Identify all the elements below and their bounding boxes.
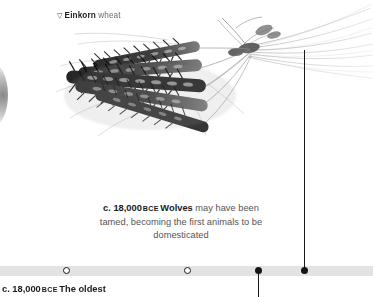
timeline-node-hollow-2[interactable] [184,267,191,274]
timeline-node-solid-1[interactable] [255,267,262,274]
caption-date: c. 18,000 [103,203,142,213]
bottom-entry-era: BCE [42,286,58,294]
bottom-entry-date: c. 18,000 [2,284,41,294]
specimen-label: ▽Einkornwheat [57,11,121,20]
bottom-entry-subject: The oldest [59,284,106,294]
einkorn-wheat-illustration [0,0,373,170]
timeline-infographic-page: ▽Einkornwheat c. 18,000BCEWolves may hav… [0,0,373,297]
specimen-name: Einkorn [65,11,96,20]
bottom-timeline-entry: c. 18,000BCEThe oldest [2,283,106,296]
caption-line1-tail: may [195,203,213,213]
leader-line-up [304,50,305,271]
leader-line-down [258,271,259,297]
timeline-node-solid-2[interactable] [301,267,308,274]
caption-subject: Wolves [160,203,192,213]
triangle-down-icon: ▽ [57,11,62,20]
specimen-suffix: wheat [98,11,120,20]
caption-era: BCE [143,205,159,213]
caption-line3: the first animals to [174,217,249,227]
wolves-caption: c. 18,000BCEWolves may have been tamed, … [90,202,272,243]
timeline-node-hollow-1[interactable] [63,267,70,274]
